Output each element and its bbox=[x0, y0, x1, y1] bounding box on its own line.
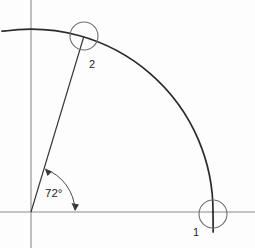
main-arc bbox=[5, 29, 213, 212]
point-1-label: 1 bbox=[193, 226, 199, 238]
point-2-label: 2 bbox=[89, 58, 95, 70]
geometry-figure: 1 2 72° bbox=[0, 0, 255, 248]
angle-arrow-head-lower bbox=[72, 203, 80, 211]
angle-value-label: 72° bbox=[45, 187, 62, 199]
radius-line-to-point-2 bbox=[31, 36, 84, 212]
figure-canvas: 1 2 72° bbox=[0, 0, 255, 248]
